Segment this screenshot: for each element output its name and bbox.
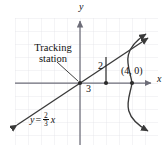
fraction-denominator: 3	[43, 119, 49, 128]
fraction-numerator: 2	[43, 112, 49, 120]
vertex-coordinate-label: (4, 0)	[121, 66, 143, 77]
point-rise-foot	[104, 81, 108, 85]
tracking-station-label: Tracking station	[22, 42, 84, 64]
point-vertex-four-zero	[130, 81, 134, 85]
equation-equals-sign: =	[35, 115, 41, 126]
line-equation-label: y = 2 3 x	[30, 112, 55, 128]
x-axis-label: x	[157, 74, 161, 85]
equation-lhs: y	[30, 115, 34, 126]
y-axis-label: y	[79, 2, 83, 13]
equation-fraction: 2 3	[43, 112, 49, 128]
rise-value-label: 2	[98, 61, 103, 72]
coordinate-plane-figure: y x Tracking station 2 3 (4, 0) y = 2 3 …	[0, 0, 167, 155]
point-origin	[78, 81, 82, 85]
equation-variable: x	[51, 115, 55, 126]
run-value-label: 3	[86, 84, 91, 95]
figure-canvas	[0, 0, 167, 155]
